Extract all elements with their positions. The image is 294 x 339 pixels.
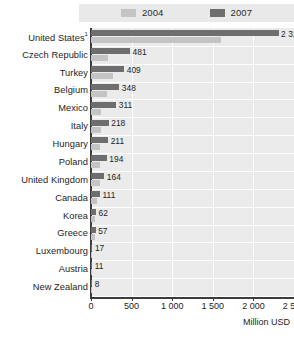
x-axis-tick-label: 500: [124, 301, 139, 311]
x-axis-tick-label: 2 000: [242, 301, 265, 311]
bar-value-label: 218: [111, 118, 125, 128]
chart-row: United Kingdom164: [0, 171, 294, 189]
bar-value-label: 311: [119, 100, 133, 110]
category-label: New Zealand: [33, 282, 88, 292]
category-label: Luxembourg: [36, 246, 88, 256]
category-label: United Kingdom: [21, 175, 88, 185]
chart-legend: 2004 2007: [79, 4, 294, 22]
legend-swatch-2004: [121, 9, 136, 17]
category-label: Belgium: [54, 85, 88, 95]
category-label: United States1: [28, 31, 88, 42]
x-axis-line: [90, 297, 294, 299]
legend-entry-2007: 2007: [210, 8, 253, 18]
chart-row: Austria11: [0, 260, 294, 278]
x-axis-tick: [132, 297, 133, 301]
bar-2004: [91, 55, 108, 61]
x-axis-title: Million USD: [243, 317, 290, 327]
bar-2007: [91, 48, 130, 54]
chart-row: New Zealand8: [0, 278, 294, 296]
chart-row: Canada111: [0, 189, 294, 207]
bar-2004: [91, 37, 221, 43]
chart-row: Turkey409: [0, 64, 294, 82]
bar-2007: [91, 137, 108, 143]
bar-2007: [91, 30, 279, 36]
bar-value-label: 11: [95, 261, 104, 271]
bar-2007: [91, 191, 100, 197]
bar-value-label: 409: [127, 65, 141, 75]
bar-value-label: 111: [103, 190, 116, 200]
bar-2004: [91, 180, 100, 186]
legend-entry-2004: 2004: [121, 8, 164, 18]
bar-2004: [91, 216, 95, 222]
bar-value-label: 57: [98, 226, 107, 236]
x-axis-tick: [172, 297, 173, 301]
bar-2004: [91, 144, 100, 150]
x-axis-tick-label: 1 500: [202, 301, 225, 311]
chart-row: Luxembourg17: [0, 242, 294, 260]
bar-2004: [91, 91, 107, 97]
x-axis-tick-label: 1 000: [161, 301, 184, 311]
bar-2007: [91, 155, 107, 161]
bar-2007: [91, 173, 104, 179]
bar-value-label: 194: [109, 154, 123, 164]
category-label: Mexico: [58, 103, 88, 113]
bar-2004: [91, 252, 92, 258]
bar-2004: [91, 287, 92, 293]
bar-value-label: 17: [95, 243, 104, 253]
legend-label-2004: 2004: [142, 8, 164, 18]
legend-label-2007: 2007: [231, 8, 253, 18]
category-label: Korea: [63, 211, 88, 221]
bar-value-label: 2 310: [281, 29, 294, 39]
x-axis-tick: [253, 297, 254, 301]
bar-2007: [91, 120, 109, 126]
bar-value-label: 481: [133, 47, 147, 57]
bar-2004: [91, 109, 101, 115]
bar-2004: [91, 234, 95, 240]
bar-2004: [91, 162, 100, 168]
category-label: Greece: [57, 228, 88, 238]
bar-2004: [91, 73, 113, 79]
bar-2007: [91, 84, 119, 90]
bar-2007: [91, 102, 116, 108]
chart-row: United States12 310: [0, 28, 294, 46]
category-label: Canada: [55, 193, 88, 203]
bar-value-label: 62: [99, 208, 108, 218]
category-label: Turkey: [60, 68, 88, 78]
legend-swatch-2007: [210, 9, 225, 17]
bar-2007: [91, 227, 96, 233]
bar-value-label: 8: [95, 279, 100, 289]
bar-2007: [91, 245, 92, 251]
bar-2004: [91, 198, 97, 204]
chart-row: Czech Republic481: [0, 46, 294, 64]
x-axis-tick-labels: 05001 0001 5002 0002 500: [0, 301, 294, 315]
chart-row: Poland194: [0, 153, 294, 171]
bar-2007: [91, 280, 92, 286]
bar-2004: [91, 127, 101, 133]
chart-row: Belgium348: [0, 82, 294, 100]
chart-rows: United States12 310Czech Republic481Turk…: [0, 28, 294, 296]
bar-value-label: 164: [107, 172, 121, 182]
category-label: Italy: [71, 121, 88, 131]
chart-row: Hungary211: [0, 135, 294, 153]
category-label: Czech Republic: [22, 50, 88, 60]
category-label: Austria: [59, 264, 88, 274]
chart-row: Korea62: [0, 207, 294, 225]
bar-chart: 2004 2007 United States12 310Czech Repub…: [0, 0, 294, 339]
x-axis-tick-label: 2 500: [283, 301, 294, 311]
bar-2007: [91, 66, 124, 72]
x-axis-tick: [91, 297, 92, 301]
x-axis-tick-label: 0: [88, 301, 93, 311]
chart-row: Mexico311: [0, 99, 294, 117]
category-label: Poland: [59, 157, 88, 167]
bar-2007: [91, 262, 92, 268]
bar-2004: [91, 269, 92, 275]
bar-2007: [91, 209, 96, 215]
bar-value-label: 348: [122, 83, 136, 93]
chart-row: Italy218: [0, 117, 294, 135]
category-label: Hungary: [53, 139, 89, 149]
x-axis-tick: [213, 297, 214, 301]
chart-row: Greece57: [0, 225, 294, 243]
bar-value-label: 211: [111, 136, 125, 146]
